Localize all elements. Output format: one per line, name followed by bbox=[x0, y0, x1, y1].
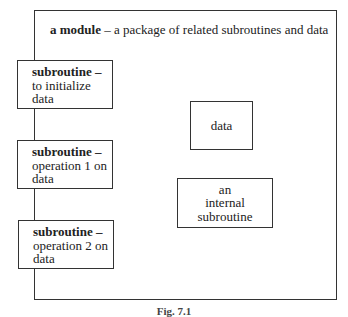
internal-line: internal bbox=[178, 196, 272, 210]
figure-caption: Fig. 7.1 bbox=[0, 305, 348, 317]
module-title: a module – a package of related subrouti… bbox=[50, 22, 328, 38]
subroutine-desc-line: data bbox=[32, 172, 112, 186]
subroutine-operation-1-box: subroutine – operation 1 on data bbox=[17, 140, 113, 189]
data-box: data bbox=[190, 101, 253, 150]
module-title-rest: – a package of related subroutines and d… bbox=[101, 22, 328, 37]
subroutine-desc-line: to initialize bbox=[32, 79, 112, 93]
subroutine-initialize-box: subroutine – to initialize data bbox=[17, 60, 113, 109]
subroutine-label: subroutine – bbox=[33, 224, 102, 239]
subroutine-desc-line: data bbox=[33, 252, 113, 266]
data-label: data bbox=[191, 119, 252, 133]
subroutine-desc-line: operation 1 on bbox=[32, 159, 112, 173]
subroutine-desc-line: operation 2 on bbox=[33, 239, 113, 253]
subroutine-label: subroutine – bbox=[32, 144, 101, 159]
subroutine-label: subroutine – bbox=[32, 64, 101, 79]
subroutine-operation-2-box: subroutine – operation 2 on data bbox=[18, 220, 114, 269]
internal-subroutine-box: an internal subroutine bbox=[177, 178, 273, 228]
internal-line: subroutine bbox=[178, 210, 272, 224]
subroutine-desc-line: data bbox=[32, 92, 112, 106]
internal-line: an bbox=[178, 183, 272, 197]
module-title-bold: a module bbox=[50, 22, 101, 37]
